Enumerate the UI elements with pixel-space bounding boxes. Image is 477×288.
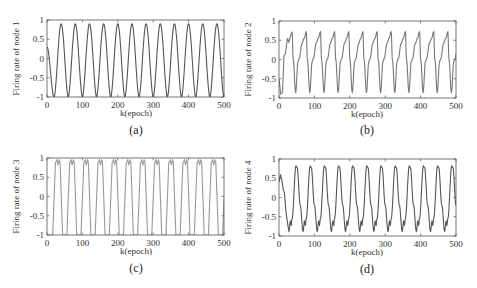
series-line-node-3 (47, 160, 224, 235)
y-tick-label: 1 (272, 16, 277, 26)
series-line-node-2 (279, 32, 456, 94)
axes-frame (47, 158, 224, 235)
x-axis-label: k(epoch) (120, 108, 152, 118)
y-tick-label: 0.5 (265, 35, 277, 45)
x-tick-label: 0 (277, 101, 282, 111)
y-tick-label: -1 (37, 230, 45, 240)
y-tick-label: 0.5 (33, 34, 45, 44)
x-tick-label: 0 (277, 239, 282, 249)
x-tick-label: 100 (76, 238, 90, 248)
y-tick-label: 0.5 (265, 173, 277, 183)
x-tick-label: 500 (449, 101, 463, 111)
y-tick-label: 1 (272, 154, 277, 164)
figure-canvas: 0100200300400500-1-0.500.51Firing rate o… (0, 0, 477, 288)
x-tick-label: 0 (45, 238, 50, 248)
y-tick-label: -1 (269, 93, 277, 103)
panel-caption: (b) (360, 123, 374, 137)
y-tick-label: 0 (40, 192, 45, 202)
y-tick-label: 0 (40, 54, 45, 64)
x-tick-label: 100 (76, 100, 90, 110)
y-axis-label: Firing rate of node 3 (11, 159, 21, 233)
x-tick-label: 400 (182, 238, 196, 248)
y-tick-label: -0.5 (262, 74, 277, 84)
x-tick-label: 0 (45, 100, 50, 110)
x-axis-label: k(epoch) (120, 246, 152, 256)
panel-d: 0100200300400500-1-0.500.51Firing rate o… (243, 154, 463, 276)
y-axis-label: Firing rate of node 4 (243, 160, 253, 234)
y-tick-label: -0.5 (30, 211, 45, 221)
y-axis-label: Firing rate of node 1 (11, 22, 21, 96)
y-tick-label: -1 (269, 231, 277, 241)
y-tick-label: 0 (272, 55, 277, 65)
panel-b: 0100200300400500-1-0.500.51Firing rate o… (243, 16, 463, 137)
panel-caption: (c) (129, 261, 142, 275)
panel-a: 0100200300400500-1-0.500.51Firing rate o… (11, 15, 231, 137)
y-tick-label: -0.5 (262, 212, 277, 222)
y-tick-label: 0 (272, 193, 277, 203)
x-tick-label: 100 (308, 239, 322, 249)
x-tick-label: 400 (182, 100, 196, 110)
y-axis-label: Firing rate of node 2 (243, 23, 253, 97)
x-axis-label: k(epoch) (351, 247, 383, 257)
series-line-node-1 (47, 24, 224, 97)
panel-caption: (a) (129, 123, 142, 137)
series-line-node-4 (279, 166, 456, 231)
panel-c: 0100200300400500-1-0.500.51Firing rate o… (11, 153, 231, 275)
y-tick-label: 1 (40, 15, 45, 25)
figure: 0100200300400500-1-0.500.51Firing rate o… (0, 0, 477, 288)
y-tick-label: -0.5 (30, 73, 45, 83)
x-tick-label: 500 (217, 238, 231, 248)
x-tick-label: 500 (449, 239, 463, 249)
x-tick-label: 400 (414, 239, 428, 249)
x-tick-label: 400 (414, 101, 428, 111)
y-tick-label: -1 (37, 92, 45, 102)
x-tick-label: 100 (308, 101, 322, 111)
y-tick-label: 1 (40, 153, 45, 163)
x-tick-label: 500 (217, 100, 231, 110)
y-tick-label: 0.5 (33, 172, 45, 182)
panel-caption: (d) (360, 262, 374, 276)
x-axis-label: k(epoch) (351, 109, 383, 119)
